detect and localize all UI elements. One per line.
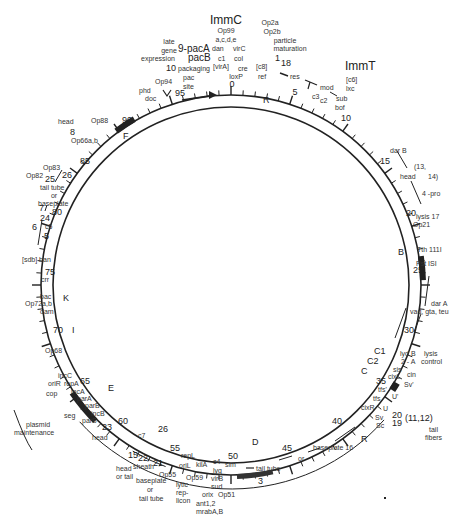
minor-tick [352, 431, 355, 435]
minor-tick [89, 152, 93, 155]
gene-8-label: 8 [70, 127, 75, 137]
op59-label: Op59 [186, 474, 203, 482]
lydb-label: lyd B [400, 350, 416, 358]
baseplate-bottom-label: baseplate [136, 477, 166, 485]
gene-26-bottom: 26 [158, 424, 168, 434]
immt-label: ImmT [345, 60, 376, 73]
gene-15-label: 15 [128, 450, 138, 460]
tailtube-left-label: tail tube [40, 184, 65, 192]
pro-label: 4 -pro [422, 190, 440, 198]
minor-tick [137, 114, 139, 118]
scale-15: 15 [380, 156, 390, 166]
ref-label: ref [258, 73, 266, 81]
minor-tick [403, 202, 408, 204]
doc-label: doc [145, 95, 156, 103]
marker-r-bottom: R [361, 434, 368, 444]
or-bottom-label: or [298, 455, 304, 463]
licon-label: licon [176, 497, 190, 505]
gene-6-label: 6 [32, 222, 37, 232]
minor-tick [323, 114, 325, 118]
dara-label: dar A [431, 300, 447, 308]
incc-label: incC [58, 372, 72, 380]
minor-tick [50, 355, 55, 357]
lxc-label: lxc [346, 85, 355, 93]
minor-tick [397, 191, 401, 193]
minor-tick [127, 445, 130, 449]
c1-label: c1 [218, 55, 225, 63]
minor-tick [312, 457, 314, 462]
loxp-label: loxP [229, 73, 243, 81]
gene-5-label: 5 [44, 231, 49, 241]
marker-r-top: R [263, 95, 270, 105]
minor-tick [415, 237, 420, 238]
or-left-label: or [51, 192, 57, 200]
line-darA [425, 276, 429, 306]
sc-label: Sc [376, 422, 384, 430]
crr-label: crr [41, 276, 49, 284]
marker-b: B [398, 247, 404, 257]
virc-label: virC [233, 45, 245, 53]
twoa-label: 2 - A [401, 358, 415, 366]
seg-label: seg [64, 412, 75, 420]
major-tick [114, 439, 119, 446]
cixl-label: cixL [388, 373, 400, 381]
line-mod [305, 80, 317, 85]
control-label: control [421, 358, 442, 366]
marker-c: C [361, 366, 368, 376]
outer-ring [41, 95, 421, 475]
gene-19-label: 19 [392, 418, 402, 428]
gene-13-label: (13, [414, 163, 426, 171]
c8-label: [c8] [256, 63, 267, 71]
tailtube2-bottom-label: tail tube [139, 495, 164, 503]
cin-label: cin [407, 371, 416, 379]
c4-label: c4 [213, 458, 220, 466]
repl-label: repL [181, 452, 195, 460]
c6-label: [c6] [346, 76, 357, 84]
scale-60: 60 [118, 416, 128, 426]
op94-label: Op94 [155, 78, 172, 86]
tail-label: tail [429, 426, 438, 434]
cop-label: cop [46, 390, 57, 398]
acde-label: a,c,d,e [215, 36, 236, 44]
pacB-label: pacB [188, 52, 211, 63]
minor-tick [39, 321, 44, 322]
lysis-label: lysis [424, 350, 438, 358]
late-label: late [163, 38, 174, 46]
scale-5: 5 [292, 87, 297, 97]
vad-label: vad, gta, teu [410, 308, 449, 316]
scale-65: 65 [80, 376, 90, 386]
sim-label: sim [225, 461, 236, 469]
op2a-label: Op2a [261, 19, 278, 27]
line-vad [414, 314, 421, 332]
head-right-label: head [400, 173, 416, 181]
head-left-label: head [58, 118, 74, 126]
major-tick [385, 397, 392, 402]
marker-c2: C2 [367, 356, 379, 366]
gene-23-label: 23 [102, 422, 112, 432]
gene-24-label: 24 [40, 213, 50, 223]
op88-label: Op88 [91, 117, 108, 125]
plasmid-label: plasmid [26, 421, 50, 429]
tth-label: Tth 111I [417, 246, 442, 254]
packaging-label: packaging [178, 65, 210, 73]
minor-tick [323, 451, 325, 455]
phd-label: phd [139, 87, 151, 95]
particle-label: particle [274, 37, 297, 45]
op51-label: Op51 [218, 491, 235, 499]
repa-label: repA [64, 380, 79, 388]
minor-tick [39, 248, 44, 249]
op2b-label: Op2b [263, 28, 280, 36]
gene-1-label: 1 [275, 53, 280, 63]
orix-label: orix [202, 491, 213, 499]
minor-tick [98, 143, 101, 147]
marker-c1: C1 [374, 346, 386, 356]
major-tick [343, 124, 348, 131]
gene-21-label: 21 [153, 458, 163, 468]
scale-85: 85 [80, 156, 90, 166]
scale-70: 70 [53, 325, 63, 335]
minor-tick [352, 135, 355, 139]
sheath-label: sheath [133, 463, 154, 471]
sv-label: Sv [375, 414, 383, 422]
minor-tick [415, 332, 420, 333]
sdb-label: [sdb] ban [22, 256, 51, 264]
